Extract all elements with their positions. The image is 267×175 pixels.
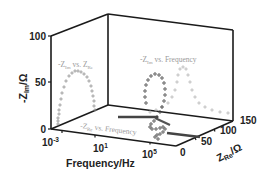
x-tick-1e-3: 10-3 (42, 136, 59, 148)
z-tick-100: 100 (29, 31, 46, 42)
series-3d-impedance-spectrum (144, 73, 166, 140)
annotation-zim-vs-frequency: -ZIm vs. Frequency (140, 55, 197, 65)
y-tick-100: 100 (220, 125, 237, 136)
y-tick-0: 0 (180, 147, 186, 158)
annotation-zim-vs-zre: -ZIm vs. ZRe (58, 60, 94, 70)
series-zim-vs-zre-projection (57, 70, 96, 125)
z-tick-0: 0 (40, 124, 46, 135)
impedance-3d-chart: -ZIm vs. ZRe -ZIm vs. Frequency -ZRe vs.… (0, 0, 267, 175)
y-tick-50: 50 (201, 136, 213, 147)
x-tick-1e5: 105 (142, 148, 157, 160)
annotation-zre-vs-frequency: -ZRe vs. Frequency (80, 121, 138, 138)
z-tick-50: 50 (35, 77, 47, 88)
y-tick-150: 150 (240, 115, 257, 126)
y-axis-label: ZRe/Ω (214, 141, 244, 165)
z-axis-label: -ZIm/Ω (17, 74, 30, 103)
chart-frame (51, 14, 233, 146)
x-axis-label: Frequency/Hz (66, 157, 135, 169)
x-tick-1e1: 101 (93, 142, 108, 154)
